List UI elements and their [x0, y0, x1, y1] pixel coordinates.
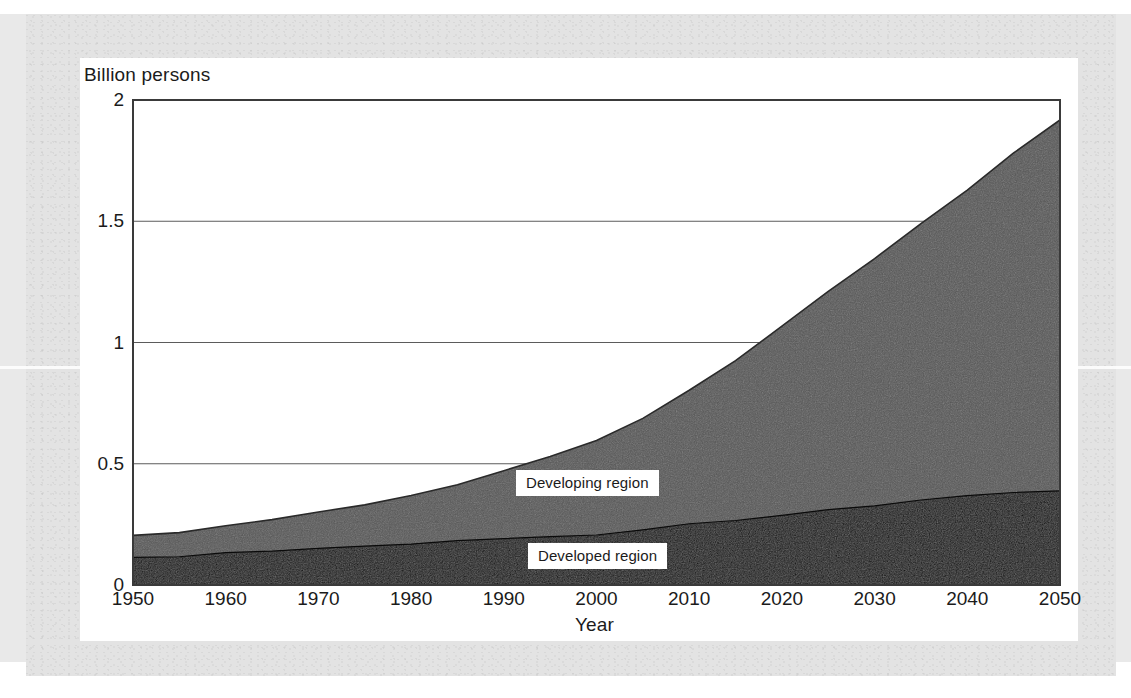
x-tick-2040: 2040	[927, 588, 1007, 610]
x-tick-1970: 1970	[278, 588, 358, 610]
annotation-developed-region: Developed region	[528, 543, 667, 569]
x-tick-2020: 2020	[742, 588, 822, 610]
x-tick-2050: 2050	[1020, 588, 1100, 610]
x-tick-1990: 1990	[464, 588, 544, 610]
x-axis-title: Year	[0, 614, 1131, 636]
x-tick-1960: 1960	[186, 588, 266, 610]
x-tick-2030: 2030	[835, 588, 915, 610]
y-axis-title: Billion persons	[84, 64, 211, 86]
y-tick-1.5: 1.5	[80, 210, 124, 232]
y-tick-0.5: 0.5	[80, 453, 124, 475]
y-tick-1: 1	[80, 332, 124, 354]
x-tick-2010: 2010	[649, 588, 729, 610]
figure-page: 2 1.5 1 0.5 0 Billion persons 1950 1960 …	[0, 0, 1131, 698]
annotation-developing-region: Developing region	[516, 470, 659, 496]
x-tick-2000: 2000	[557, 588, 637, 610]
y-tick-2: 2	[80, 89, 124, 111]
x-tick-1980: 1980	[371, 588, 451, 610]
x-tick-1950: 1950	[93, 588, 173, 610]
